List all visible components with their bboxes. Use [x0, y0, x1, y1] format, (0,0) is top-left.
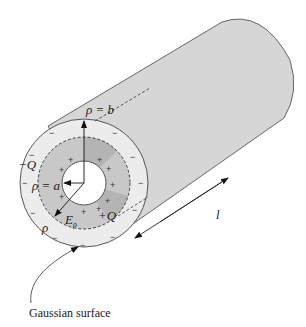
- svg-text:+: +: [59, 165, 64, 175]
- svg-text:−: −: [110, 232, 115, 242]
- caption-gaussian-surface: Gaussian surface: [29, 306, 111, 321]
- svg-text:−: −: [52, 233, 57, 243]
- label-length: l: [216, 207, 220, 222]
- svg-text:−: −: [130, 152, 135, 162]
- svg-text:+: +: [81, 207, 86, 217]
- svg-text:−: −: [49, 128, 54, 138]
- svg-text:+: +: [106, 164, 111, 174]
- svg-text:−: −: [138, 178, 143, 188]
- svg-text:−: −: [132, 205, 137, 215]
- svg-text:−: −: [30, 208, 35, 218]
- svg-text:+: +: [68, 155, 73, 165]
- svg-text:+: +: [105, 196, 110, 206]
- label-rho-b: ρ = b: [85, 102, 115, 117]
- coaxial-cylinder-diagram: − − − − − − − − − − − + + + + + + + + + …: [0, 0, 306, 327]
- svg-text:+: +: [59, 192, 64, 202]
- svg-text:+: +: [110, 180, 115, 190]
- svg-text:−: −: [22, 178, 27, 188]
- gaussian-pointer: [31, 247, 78, 303]
- svg-text:+: +: [97, 155, 102, 165]
- svg-text:−: −: [80, 240, 85, 250]
- label-pos-q: +Q: [98, 208, 117, 223]
- svg-text:−: −: [112, 128, 117, 138]
- label-rho: ρ: [41, 220, 48, 235]
- label-neg-q: −Q: [18, 157, 37, 172]
- label-rho-a: ρ = a: [31, 178, 61, 193]
